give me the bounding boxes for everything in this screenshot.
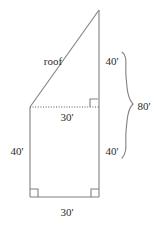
upper-right-height-label: 40' bbox=[101, 55, 123, 67]
right-angle-mark-base-left bbox=[30, 189, 38, 197]
bottom-width-label: 30' bbox=[52, 206, 82, 218]
total-right-height-label: 80' bbox=[132, 100, 156, 112]
right-angle-mark-eave bbox=[90, 99, 98, 107]
middle-width-label: 30' bbox=[52, 111, 82, 123]
left-height-label: 40' bbox=[5, 145, 29, 157]
lower-right-height-label: 40' bbox=[101, 145, 123, 157]
geometry-diagram: roof 40' 30' 80' 40' 40' 30' bbox=[0, 0, 161, 233]
roof-label: roof bbox=[34, 55, 72, 67]
right-angle-mark-base-right bbox=[91, 189, 99, 197]
